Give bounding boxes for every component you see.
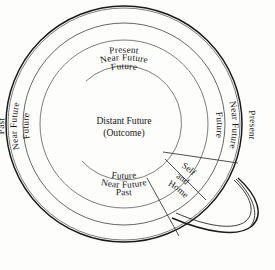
center-label-line1: Distant Future [96, 115, 151, 126]
left-past: Past [0, 117, 6, 134]
left-near-future: Near Future [9, 101, 22, 151]
diagram-root: Present Near Future Future Future Near F… [0, 0, 275, 270]
right-near-future: Near Future [228, 100, 241, 150]
center-label-line2: (Outcome) [103, 127, 145, 139]
top-future: Future [110, 61, 138, 72]
concentric-time-diagram: Present Near Future Future Future Near F… [0, 0, 275, 270]
bottom-past: Past [116, 187, 133, 197]
right-future: Future [214, 111, 225, 139]
bottom-future: Future [111, 170, 137, 181]
left-future: Future [20, 112, 31, 140]
wedge-divider-upper-outer [163, 152, 238, 163]
wedge-divider-lower [147, 178, 179, 236]
right-present: Present [247, 110, 258, 141]
